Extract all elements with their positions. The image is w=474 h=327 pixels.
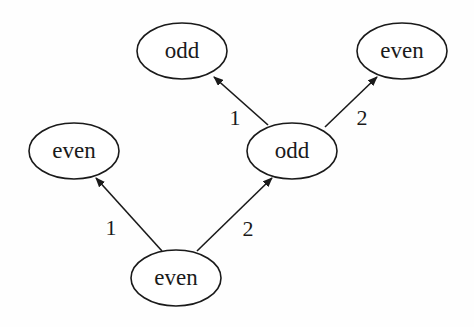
edge-mid-to-top-right: 2 bbox=[325, 77, 377, 130]
node-root-even: even bbox=[131, 250, 221, 306]
edge-label: 2 bbox=[357, 105, 368, 130]
edge-label: 2 bbox=[243, 216, 254, 241]
parity-tree-diagram: 1 2 1 2 even even bbox=[0, 0, 474, 327]
edge-mid-to-top-left: 1 bbox=[214, 77, 268, 130]
node-top-left-odd: odd bbox=[137, 23, 227, 79]
node-label: odd bbox=[165, 38, 200, 63]
edge-root-to-mid: 2 bbox=[197, 178, 272, 251]
node-top-right-even: even bbox=[357, 23, 447, 79]
nodes-group: even even odd odd even bbox=[29, 23, 447, 306]
edge-label: 1 bbox=[106, 215, 117, 240]
node-mid-odd: odd bbox=[247, 123, 337, 179]
edges-group: 1 2 1 2 bbox=[96, 77, 377, 251]
node-label: even bbox=[380, 38, 424, 63]
node-left-even: even bbox=[29, 123, 119, 179]
edge-label: 1 bbox=[230, 105, 241, 130]
diagram-canvas: 1 2 1 2 even even bbox=[0, 0, 474, 327]
edge-root-to-left: 1 bbox=[96, 178, 162, 251]
edge-line bbox=[214, 77, 268, 125]
node-label: odd bbox=[275, 138, 310, 163]
edge-line bbox=[325, 77, 377, 127]
node-label: even bbox=[52, 138, 96, 163]
edge-line bbox=[197, 178, 272, 251]
node-label: even bbox=[154, 265, 198, 290]
